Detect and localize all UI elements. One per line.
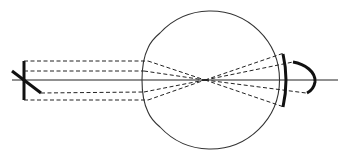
schematic-eye-diagram: [0, 0, 349, 157]
ray-converge-outer-bottom: [148, 80, 205, 100]
ray-diverge-outer-bottom: [205, 80, 284, 107]
ray-diverge-inner-bottom: [205, 80, 306, 93]
image-curve: [293, 62, 315, 93]
ray-converge-inner-top: [144, 71, 205, 80]
ray-inner-bottom: [41, 92, 144, 93]
object-diagonal: [12, 71, 41, 93]
ray-converge-outer-top: [148, 61, 205, 80]
